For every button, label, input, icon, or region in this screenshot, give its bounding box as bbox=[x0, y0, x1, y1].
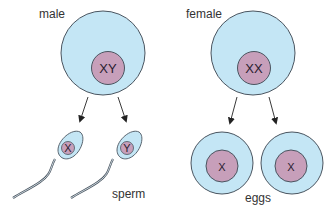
sperm-x-chromosome: X bbox=[64, 142, 72, 154]
sperm-label: sperm bbox=[112, 187, 145, 201]
arrow-to-sperm-y bbox=[118, 97, 126, 121]
female-chromosomes: XX bbox=[245, 61, 263, 76]
eggs-label: eggs bbox=[245, 191, 271, 205]
female-cell: XX bbox=[211, 11, 295, 95]
egg-2: X bbox=[261, 132, 323, 194]
arrow-to-egg-1 bbox=[230, 97, 237, 123]
sperm-y-chromosome: Y bbox=[123, 142, 131, 154]
male-label: male bbox=[39, 7, 65, 21]
sex-determination-diagram: XY male XX female X Y sperm X X bbox=[0, 0, 332, 211]
sperm-x: X bbox=[13, 131, 83, 198]
female-label: female bbox=[186, 7, 222, 21]
egg-2-chromosome: X bbox=[287, 161, 295, 173]
male-cell: XY bbox=[61, 11, 145, 95]
egg-1-chromosome: X bbox=[218, 161, 226, 173]
male-chromosomes: XY bbox=[99, 61, 117, 76]
egg-1: X bbox=[191, 132, 253, 194]
arrow-to-egg-2 bbox=[269, 97, 276, 123]
arrow-to-sperm-x bbox=[80, 97, 88, 121]
